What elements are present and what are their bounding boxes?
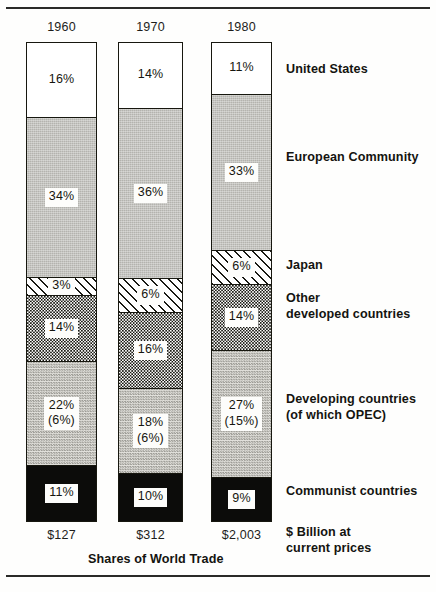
- caption-title: Shares of World Trade: [88, 551, 224, 567]
- segment-value-label: 33%: [225, 163, 258, 181]
- legend-item-united-states: United States: [286, 62, 368, 78]
- segment-value-label: 27% (15%): [221, 397, 263, 431]
- legend-item-japan: Japan: [286, 258, 323, 274]
- segment-value-label: 22% (6%): [44, 397, 79, 431]
- segment-value-label: 6%: [228, 258, 254, 276]
- segment-1970-european-community: 36%: [118, 108, 183, 278]
- segment-value-label: 36%: [134, 184, 167, 202]
- segment-value-label: 11%: [45, 484, 77, 502]
- segment-1960-japan: 3%: [26, 277, 97, 295]
- segment-value-label: 16%: [45, 71, 78, 89]
- segment-1970-japan: 6%: [118, 278, 183, 312]
- segment-1960-other-developed-countries: 14%: [26, 295, 97, 361]
- legend-item-developing-countries: Developing countries (of which OPEC): [286, 392, 416, 424]
- bottom-divider-rule: [6, 575, 430, 577]
- segment-1980-developing-countries: 27% (15%): [211, 350, 272, 477]
- legend-item-communist-countries: Communist countries: [286, 484, 417, 500]
- figure-stacked-bar-chart: 1960 1970 1980 16% 34% 3% 14% 22% (6%) 1…: [0, 0, 436, 592]
- legend-item-european-community: European Community: [286, 150, 419, 166]
- bar-1980: 11% 33% 6% 14% 27% (15%) 9%: [211, 42, 272, 522]
- segment-value-label: 14%: [134, 66, 167, 84]
- caption-units: $ Billion at current prices: [286, 524, 371, 556]
- segment-value-label: 34%: [45, 188, 78, 206]
- segment-value-label: 14%: [225, 308, 258, 326]
- segment-value-label: 10%: [134, 488, 167, 506]
- segment-1960-united-states: 16%: [26, 42, 97, 117]
- total-1960: $127: [26, 528, 97, 542]
- segment-1970-united-states: 14%: [118, 42, 183, 108]
- legend-item-other-developed-countries: Other developed countries: [286, 291, 410, 323]
- segment-1980-other-developed-countries: 14%: [211, 284, 272, 350]
- segment-value-label: 18% (6%): [133, 414, 168, 448]
- bar-1970: 14% 36% 6% 16% 18% (6%) 10%: [118, 42, 183, 522]
- bar-1960: 16% 34% 3% 14% 22% (6%) 11%: [26, 42, 97, 522]
- year-label-1970: 1970: [118, 20, 183, 34]
- total-1970: $312: [118, 528, 183, 542]
- segment-value-label: 14%: [45, 319, 78, 337]
- segment-1980-communist-countries: 9%: [211, 477, 272, 522]
- segment-value-label: 9%: [228, 490, 254, 508]
- segment-value-label: 6%: [137, 286, 163, 304]
- segment-value-label: 3%: [48, 277, 74, 295]
- segment-1960-communist-countries: 11%: [26, 465, 97, 522]
- segment-1980-japan: 6%: [211, 250, 272, 284]
- segment-1970-other-developed-countries: 16%: [118, 312, 183, 388]
- year-label-1960: 1960: [26, 20, 97, 34]
- segment-value-label: 16%: [134, 341, 167, 359]
- segment-1970-communist-countries: 10%: [118, 473, 183, 522]
- total-1980: $2,003: [211, 528, 272, 542]
- segment-1960-developing-countries: 22% (6%): [26, 361, 97, 465]
- segment-1980-united-states: 11%: [211, 42, 272, 94]
- segment-1970-developing-countries: 18% (6%): [118, 388, 183, 473]
- segment-1960-european-community: 34%: [26, 117, 97, 277]
- top-divider-rule: [6, 7, 430, 9]
- year-label-1980: 1980: [211, 20, 272, 34]
- segment-value-label: 11%: [225, 59, 257, 77]
- segment-1980-european-community: 33%: [211, 94, 272, 250]
